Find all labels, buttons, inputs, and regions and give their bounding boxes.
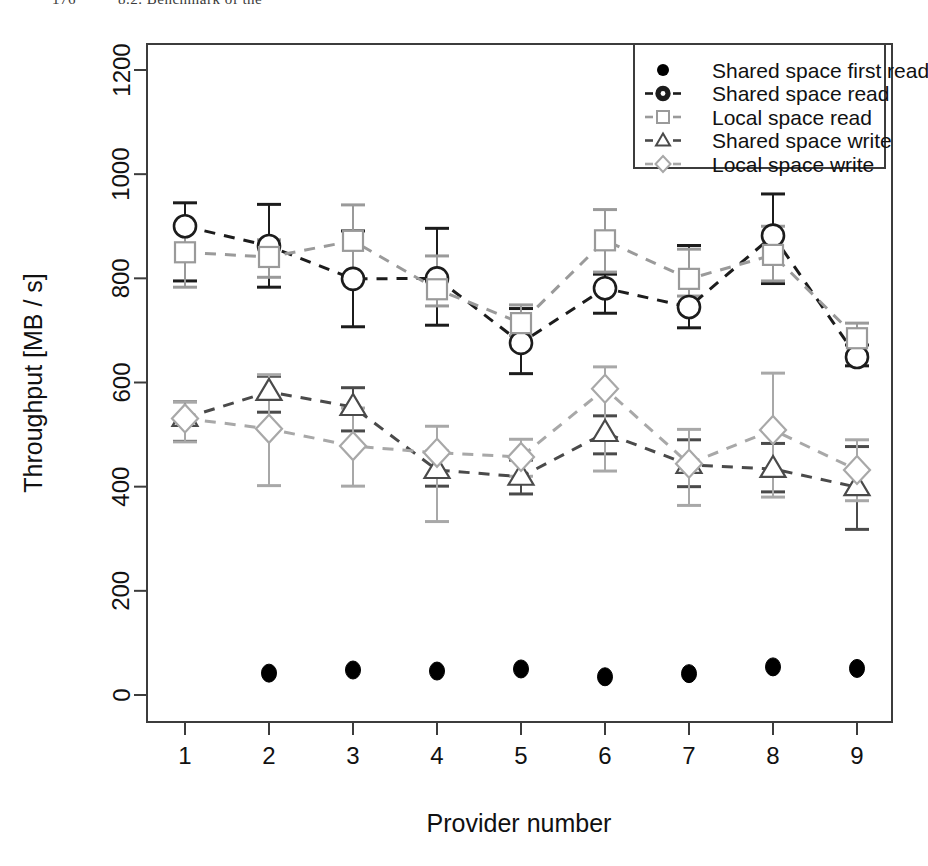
- y-tick-label: 400: [108, 467, 135, 507]
- data-point-diamond: [340, 432, 366, 460]
- data-point-square: [343, 231, 363, 251]
- legend-label: Shared space first read: [712, 59, 928, 82]
- data-point-circle: [678, 296, 700, 318]
- data-point-triangle: [593, 420, 618, 441]
- data-point-square: [427, 279, 447, 299]
- legend-label: Shared space write: [712, 129, 892, 152]
- x-tick-label: 7: [682, 742, 695, 769]
- running-head: 8.2. Benchmark of the: [118, 0, 262, 8]
- data-point-square: [847, 328, 867, 348]
- y-axis-title: Throughput [MB / s]: [19, 273, 47, 493]
- x-axis: 123456789: [178, 722, 863, 769]
- data-point-filled-circle: [430, 662, 445, 680]
- x-tick-label: 9: [850, 742, 863, 769]
- data-point-filled-circle: [766, 658, 781, 676]
- data-point-diamond: [256, 415, 282, 443]
- x-tick-label: 1: [178, 742, 191, 769]
- series-markers-shared-space-first-read: [262, 658, 865, 686]
- y-tick-label: 1200: [108, 43, 135, 96]
- data-point-filled-circle: [262, 664, 277, 682]
- series-markers-shared-space-read: [174, 215, 868, 368]
- series-markers-shared-space-write: [173, 379, 870, 495]
- throughput-line-chart: 020040060080010001200 123456789 Throughp…: [0, 0, 928, 866]
- data-point-circle: [510, 332, 532, 354]
- x-tick-label: 3: [346, 742, 359, 769]
- x-tick-label: 4: [430, 742, 443, 769]
- data-point-diamond: [508, 443, 534, 471]
- data-point-square: [175, 242, 195, 262]
- page-header: 176 8.2. Benchmark of the: [0, 0, 928, 22]
- data-point-diamond: [844, 456, 870, 484]
- data-point-circle: [342, 268, 364, 290]
- data-point-circle: [174, 215, 196, 237]
- data-point-square: [595, 230, 615, 250]
- page-number: 176: [52, 0, 76, 8]
- legend-label: Shared space read: [712, 82, 889, 105]
- y-tick-label: 200: [108, 571, 135, 611]
- series-markers-local-space-read: [175, 230, 867, 348]
- data-point-filled-circle: [346, 661, 361, 679]
- data-point-diamond: [172, 404, 198, 432]
- x-tick-label: 5: [514, 742, 527, 769]
- data-point-triangle: [761, 456, 786, 477]
- data-point-square: [679, 269, 699, 289]
- data-point-square: [763, 245, 783, 265]
- y-tick-label: 600: [108, 362, 135, 402]
- data-point-filled-circle: [514, 660, 529, 678]
- x-tick-label: 6: [598, 742, 611, 769]
- data-point-filled-circle: [682, 665, 697, 683]
- x-tick-label: 2: [262, 742, 275, 769]
- y-tick-label: 1000: [108, 147, 135, 200]
- legend-marker-square: [657, 111, 669, 123]
- x-tick-label: 8: [766, 742, 779, 769]
- legend-label: Local space write: [712, 153, 874, 176]
- data-point-filled-circle: [598, 668, 613, 686]
- y-tick-label: 800: [108, 258, 135, 298]
- y-tick-label: 0: [108, 688, 135, 701]
- data-point-circle: [762, 225, 784, 247]
- x-axis-title: Provider number: [427, 809, 612, 837]
- legend-marker-filled-circle: [657, 64, 669, 76]
- legend-label: Local space read: [712, 106, 872, 129]
- data-point-square: [511, 313, 531, 333]
- chart-legend: Shared space first readShared space read…: [634, 44, 928, 176]
- data-point-diamond: [760, 416, 786, 444]
- data-point-filled-circle: [850, 659, 865, 677]
- data-point-square: [259, 247, 279, 267]
- legend-marker-circle-hole: [661, 91, 666, 96]
- data-point-triangle: [257, 379, 282, 400]
- figure-container: 176 8.2. Benchmark of the 02004006008001…: [0, 0, 928, 866]
- y-axis: 020040060080010001200: [108, 43, 148, 701]
- series-layer: [172, 194, 870, 686]
- data-point-circle: [594, 277, 616, 299]
